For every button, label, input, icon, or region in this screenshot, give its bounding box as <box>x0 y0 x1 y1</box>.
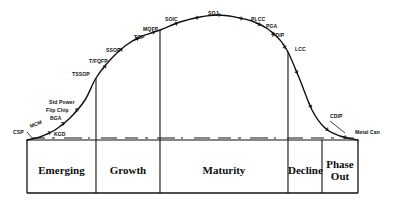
phase-label-phase-out: Phase Out <box>322 158 358 182</box>
phase-label-decline: Decline <box>288 164 322 176</box>
package-label: BGA <box>50 115 62 121</box>
package-label: Flip Chip <box>46 107 69 113</box>
package-label: CDIP <box>330 113 343 119</box>
phase-label-growth: Growth <box>96 164 160 176</box>
product-lifecycle-chart: CSPMCMKGDBGAFlip ChipStd PowerTSSOPT/FQF… <box>0 0 403 210</box>
package-label: KGD <box>54 131 66 137</box>
label-leader-lines <box>27 121 345 139</box>
package-label: Metal Can <box>355 129 380 135</box>
package-label: T/FQFP <box>89 58 108 64</box>
package-label: PLCC <box>251 16 265 22</box>
package-label: TCP <box>134 34 145 40</box>
phase-label-emerging: Emerging <box>27 164 96 176</box>
package-label: PGA <box>266 23 277 29</box>
package-label: CSP <box>13 129 24 135</box>
package-label: MQFP <box>143 26 158 32</box>
curve-tick-marks <box>45 13 347 139</box>
package-label: TSSOP <box>72 71 90 77</box>
package-label: SOJ <box>208 10 219 16</box>
package-label: SSOP <box>106 47 121 53</box>
phase-label-maturity: Maturity <box>160 164 288 176</box>
lifecycle-bell-curve <box>27 15 358 140</box>
package-label: PDIP <box>272 32 284 38</box>
package-label: LCC <box>295 46 306 52</box>
package-label: Std Power <box>49 99 75 105</box>
package-label: SOIC <box>165 16 178 22</box>
